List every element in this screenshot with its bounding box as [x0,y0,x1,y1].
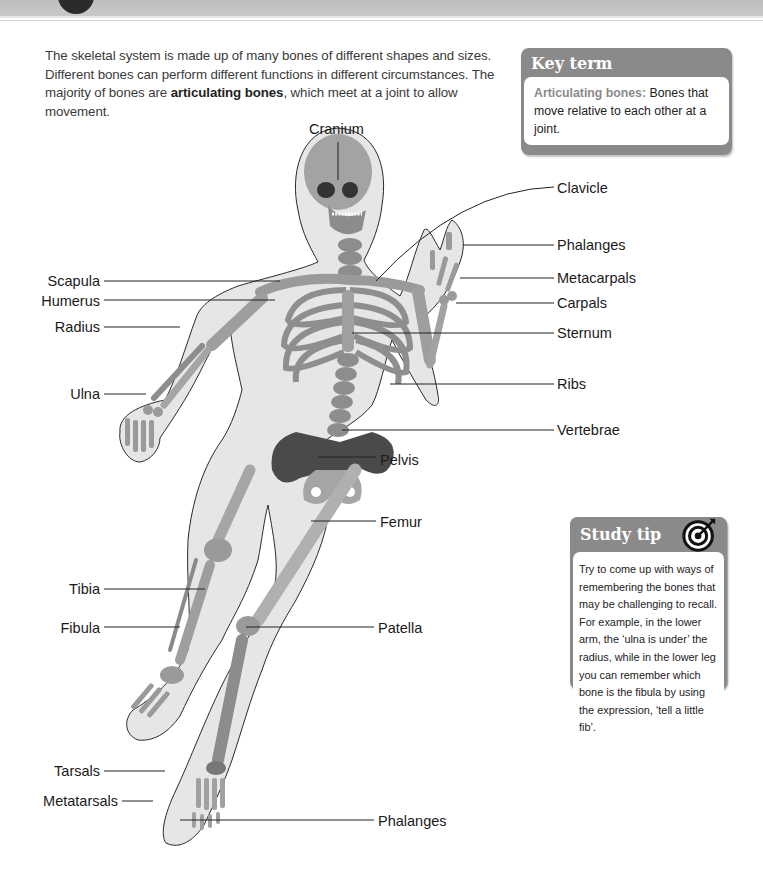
label-tibia: Tibia [0,581,100,597]
body-silhouette [120,128,464,845]
target-icon [681,515,719,553]
label-ribs: Ribs [557,376,586,392]
label-cranium: Cranium [309,121,364,137]
sternum-bone [342,290,354,352]
label-vertebrae: Vertebrae [557,422,620,438]
label-fibula: Fibula [0,620,100,636]
label-phalanges-foot: Phalanges [378,813,447,829]
label-femur: Femur [380,514,422,530]
patella-bone [236,616,260,636]
label-sternum: Sternum [557,325,612,341]
label-patella: Patella [378,620,422,636]
study-tip-panel: Study tip Try to come up with ways of re… [570,517,727,689]
label-clavicle: Clavicle [557,180,608,196]
label-ulna: Ulna [0,386,100,402]
label-scapula: Scapula [0,273,100,289]
label-metacarpals: Metacarpals [557,270,636,286]
label-metatarsals: Metatarsals [0,793,118,809]
label-tarsals: Tarsals [0,763,100,779]
label-phalanges-hand: Phalanges [557,237,626,253]
label-pelvis: Pelvis [380,452,419,468]
study-tip-body: Try to come up with ways of remembering … [573,552,724,743]
label-humerus: Humerus [0,293,100,309]
label-carpals: Carpals [557,295,607,311]
label-radius: Radius [0,319,100,335]
